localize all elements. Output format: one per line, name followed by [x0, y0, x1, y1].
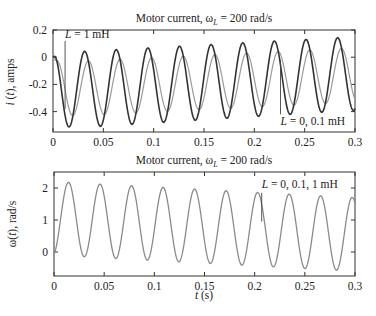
- x-tick-label: 0.2: [247, 136, 262, 148]
- annotation-label: L = 0, 0.1 mH: [280, 115, 346, 128]
- current-plot-series: [53, 38, 355, 127]
- current-plot: Motor current, ωL = 200 rad/s 00.050.10.…: [4, 12, 362, 148]
- x-tick-label: 0.3: [348, 136, 363, 148]
- speed-plot-title: Motor current, ωL = 200 rad/s: [136, 154, 273, 169]
- y-tick-label: -0.4: [29, 106, 47, 118]
- chart-canvas: Motor current, ωL = 200 rad/s 00.050.10.…: [0, 0, 376, 316]
- figure: Motor current, ωL = 200 rad/s 00.050.10.…: [0, 0, 376, 316]
- series-line: [54, 182, 355, 270]
- x-tick-label: 0.1: [147, 280, 162, 292]
- speed-plot-ylabel: ω(t), rad/s: [6, 200, 19, 247]
- annotation-label: L = 0, 0.1, 1 mH: [261, 178, 338, 191]
- x-tick-label: 0.25: [295, 136, 315, 148]
- speed-plot-xlabel: t (s): [195, 289, 213, 302]
- x-tick-label: 0.2: [247, 280, 262, 292]
- x-tick-label: 0.15: [194, 136, 214, 148]
- x-tick-label: 0: [50, 136, 56, 148]
- y-tick-label: -0.2: [29, 78, 47, 90]
- y-tick-label: 0.2: [33, 24, 48, 36]
- y-tick-label: 0: [41, 51, 47, 63]
- y-tick-label: 0: [42, 246, 48, 258]
- speed-plot-series: [54, 182, 355, 270]
- x-tick-label: 0.3: [348, 280, 363, 292]
- x-tick-label: 0.05: [94, 280, 114, 292]
- x-tick-label: 0.05: [93, 136, 113, 148]
- series-line: [53, 38, 355, 127]
- current-plot-ylabel: i (t), amps: [4, 58, 17, 106]
- x-tick-label: 0: [51, 280, 57, 292]
- annotation-label: L = 1 mH: [64, 28, 110, 40]
- current-plot-title: Motor current, ωL = 200 rad/s: [136, 12, 273, 27]
- current-plot-axes: 00.050.10.150.20.250.30.20-0.2-0.4: [29, 24, 363, 148]
- x-tick-label: 0.1: [146, 136, 161, 148]
- x-tick-label: 0.25: [295, 280, 315, 292]
- y-tick-label: 1: [42, 214, 48, 226]
- speed-plot: Motor current, ωL = 200 rad/s 00.050.10.…: [6, 154, 362, 302]
- y-tick-label: 2: [42, 182, 48, 194]
